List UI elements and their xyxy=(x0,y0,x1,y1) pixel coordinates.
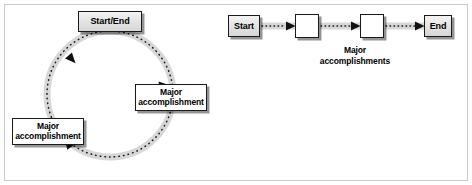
node-major-accomplishment-right[interactable]: Major accomplishment xyxy=(135,84,207,111)
label-line-2: accomplishment xyxy=(15,131,81,141)
figure-canvas: Start/End Major accomplishment Major acc… xyxy=(0,0,472,185)
chain-connector-1 xyxy=(261,22,296,31)
node-milestone-2[interactable] xyxy=(360,14,384,38)
chain-caption: Major accomplishments xyxy=(300,45,410,66)
node-end-label: End xyxy=(430,21,447,31)
chain-connector-3 xyxy=(385,22,425,31)
label-line-1: Major xyxy=(160,87,182,97)
cycle-arrowhead-to-start-end xyxy=(65,52,79,66)
label-line-2: accomplishment xyxy=(138,97,204,107)
chain-caption-line-1: Major xyxy=(300,45,410,56)
node-major-accomplishment-left-label: Major accomplishment xyxy=(15,122,81,141)
node-major-accomplishment-left[interactable]: Major accomplishment xyxy=(12,118,84,145)
node-major-accomplishment-right-label: Major accomplishment xyxy=(138,88,204,107)
chain-caption-line-2: accomplishments xyxy=(300,56,410,67)
node-end[interactable]: End xyxy=(424,15,452,37)
label-line-1: Major xyxy=(37,121,59,131)
node-start-end[interactable]: Start/End xyxy=(78,11,142,32)
node-start-label: Start xyxy=(234,21,254,31)
node-milestone-1[interactable] xyxy=(295,14,319,38)
chain-connector-2 xyxy=(320,22,361,31)
node-start-end-label: Start/End xyxy=(90,16,129,26)
node-start[interactable]: Start xyxy=(228,15,260,37)
